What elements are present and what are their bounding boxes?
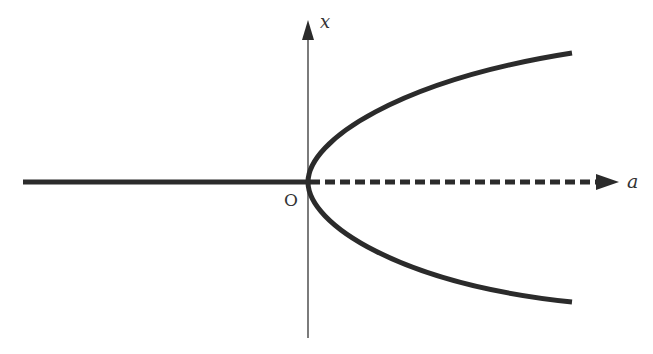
horizontal-axis bbox=[310, 174, 619, 190]
origin-label: O bbox=[284, 190, 298, 210]
lower-branch bbox=[308, 182, 572, 302]
vertical-axis-arrow-icon bbox=[302, 20, 314, 40]
horizontal-axis-arrow-icon bbox=[596, 174, 619, 190]
bifurcation-diagram: x a O bbox=[0, 0, 653, 354]
upper-branch bbox=[308, 53, 572, 182]
horizontal-axis-label: a bbox=[627, 170, 638, 192]
vertical-axis-label: x bbox=[320, 11, 330, 32]
